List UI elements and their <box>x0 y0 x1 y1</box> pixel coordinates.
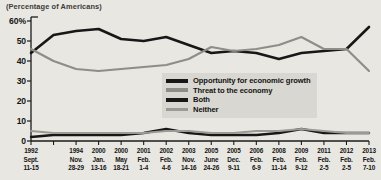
legend-swatch-neither <box>166 108 188 112</box>
legend-item: Neither <box>166 105 311 115</box>
legend-label-threat: Threat to the economy <box>193 86 272 95</box>
series-line-threat-to-the-economy <box>31 37 369 71</box>
legend-label-neither: Neither <box>193 105 218 114</box>
legend-label-both: Both <box>193 95 210 104</box>
legend-item: Threat to the economy <box>166 86 311 96</box>
legend-item: Opportunity for economic growth <box>166 76 311 86</box>
chart-legend: Opportunity for economic growth Threat t… <box>162 73 317 118</box>
legend-swatch-opportunity <box>166 79 188 84</box>
legend-item: Both <box>166 95 311 105</box>
legend-swatch-threat <box>166 88 188 92</box>
legend-label-opportunity: Opportunity for economic growth <box>193 76 311 85</box>
legend-swatch-both <box>166 98 188 103</box>
